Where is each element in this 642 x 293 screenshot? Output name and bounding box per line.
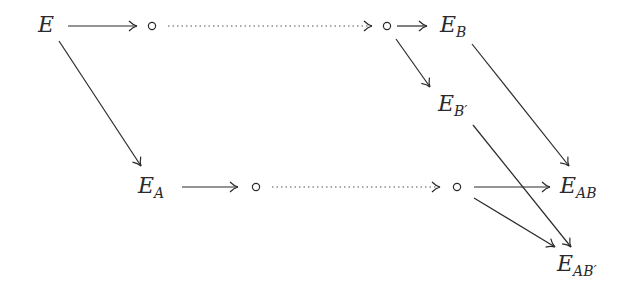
diagram-edges [0, 0, 642, 293]
node-c2-circle-icon [383, 22, 390, 29]
node-EB-sub: B [456, 24, 466, 40]
node-EABp-sub: AB′ [573, 263, 597, 279]
node-E: E [38, 14, 54, 36]
node-E-main: E [38, 12, 54, 37]
arrow-c2-to-EBp [396, 39, 430, 87]
node-EBp-sub: B′ [454, 103, 467, 119]
node-EABp: EAB′ [557, 253, 597, 282]
node-EAB-sub: AB [576, 185, 596, 201]
node-c4-circle-icon [453, 183, 460, 190]
node-EABp-main: E [557, 251, 573, 276]
node-EA: EA [138, 175, 164, 204]
node-EBp-main: E [438, 91, 454, 116]
node-EB-main: E [440, 12, 456, 37]
arrow-c4-to-EABp [474, 198, 555, 247]
node-EAB: EAB [560, 175, 596, 204]
node-EBp: EB′ [438, 93, 468, 122]
node-EA-main: E [138, 173, 154, 198]
commutative-diagram: E EB EB′ EA EAB EAB′ [0, 0, 642, 293]
node-c1-circle-icon [148, 22, 155, 29]
node-EA-sub: A [154, 185, 164, 201]
arrow-EB-to-EAB [472, 44, 569, 166]
arrow-E-to-EA [59, 41, 141, 166]
arrow-EBp-to-EABp [473, 125, 571, 247]
node-EAB-main: E [560, 173, 576, 198]
node-EB: EB [440, 14, 466, 43]
node-c3-circle-icon [252, 183, 259, 190]
